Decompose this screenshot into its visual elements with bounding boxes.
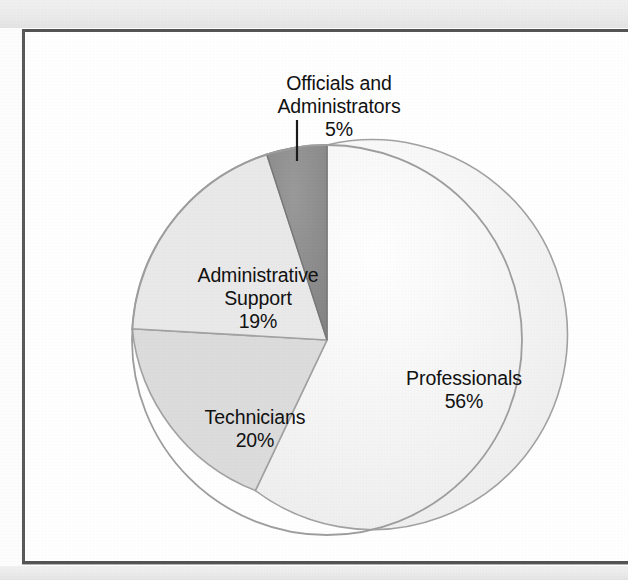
scan-band-bottom [0,566,628,580]
pie-label-administrative-support: Administrative Support 19% [165,264,351,333]
scan-band-top [0,0,628,28]
pie-label-officials-and-administrators: Officials and Administrators 5% [241,72,437,141]
scanned-page: Officials and Administrators 5% Administ… [0,0,628,580]
page-gutter [0,0,22,580]
pie-chart-figure: Officials and Administrators 5% Administ… [25,32,628,561]
pie-label-technicians: Technicians 20% [172,406,338,452]
pie-label-professionals: Professionals 56% [380,367,548,413]
frame-bottom-rule [22,561,628,564]
